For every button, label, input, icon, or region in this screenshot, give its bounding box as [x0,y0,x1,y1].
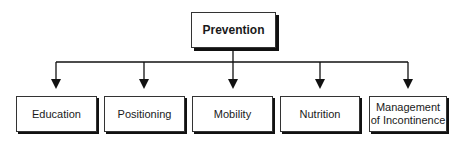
child-node-nutrition: Nutrition [280,96,360,132]
child-node-label-line2: of Incontinence [371,114,446,127]
child-node-label: Positioning [118,108,172,121]
child-node-mobility: Mobility [192,96,273,132]
child-node-label: Mobility [214,108,251,121]
arrow-down-icon [315,62,325,89]
child-node-label: Education [32,108,81,121]
child-node-positioning: Positioning [104,96,185,132]
root-node-prevention: Prevention [191,12,276,48]
arrow-down-icon [139,62,149,89]
child-node-label: Nutrition [300,108,341,121]
arrow-down-icon [51,62,61,89]
child-node-education: Education [16,96,97,132]
child-node-label-line1: Management [376,101,440,114]
arrow-down-icon [228,62,238,89]
child-node-management-of-incontinence: Management of Incontinence [369,96,447,132]
root-node-label: Prevention [202,24,264,37]
arrow-down-icon [403,62,413,89]
